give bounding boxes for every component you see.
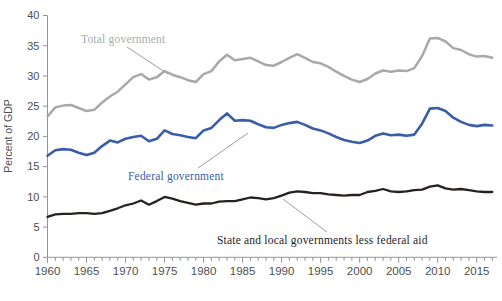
y-tick-label: 5 (33, 221, 39, 233)
y-tick-label: 40 (27, 9, 39, 21)
annotation-pointer-line (283, 199, 327, 232)
x-tick-label: 1975 (152, 265, 178, 277)
annotation-pointer-line (198, 133, 248, 168)
series-line-2 (48, 185, 493, 216)
y-tick-label: 25 (27, 100, 39, 112)
x-tick-label: 1995 (308, 265, 334, 277)
x-tick-label: 2010 (425, 265, 451, 277)
y-tick-label: 15 (27, 160, 39, 172)
y-tick-label: 0 (33, 251, 39, 263)
line-chart-canvas: 0510152025303540196019651970197519801985… (0, 0, 502, 301)
y-tick-label: 20 (27, 130, 39, 142)
x-tick-label: 1980 (191, 265, 217, 277)
y-axis-title: Percent of GDP (2, 81, 14, 191)
series-label-state-local: State and local governments less federal… (217, 234, 428, 246)
x-tick-label: 1990 (269, 265, 295, 277)
y-tick-label: 35 (27, 40, 39, 52)
y-tick-label: 30 (27, 70, 39, 82)
x-tick-label: 2015 (464, 265, 490, 277)
x-tick-label: 1970 (113, 265, 139, 277)
annotation-pointer-line (127, 47, 168, 74)
series-label-total-government: Total government (81, 33, 165, 45)
series-label-federal-government: Federal government (128, 170, 224, 182)
x-tick-label: 1960 (35, 265, 61, 277)
series-line-0 (48, 38, 493, 117)
x-tick-label: 1985 (230, 265, 256, 277)
series-line-1 (48, 108, 493, 156)
chart-figure: 0510152025303540196019651970197519801985… (0, 0, 502, 301)
y-tick-label: 10 (27, 191, 39, 203)
x-tick-label: 2000 (347, 265, 373, 277)
x-tick-label: 2005 (386, 265, 412, 277)
x-tick-label: 1965 (74, 265, 100, 277)
